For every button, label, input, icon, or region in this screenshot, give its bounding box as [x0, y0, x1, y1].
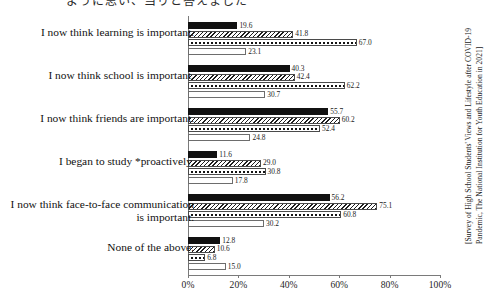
bar-item: 41.8	[188, 31, 308, 38]
bar-value-label: 30.2	[266, 220, 279, 227]
category-label: I now think learning is important.	[9, 26, 194, 39]
clipped-header-label: ように思い、当りと答えました	[66, 0, 491, 7]
category-rows: 19.641.867.023.140.342.462.230.755.760.2…	[188, 16, 440, 274]
bar-diagonal-hatch	[188, 117, 340, 124]
x-axis-line	[188, 275, 441, 276]
bar-item: 40.3	[188, 65, 304, 72]
bar-white-outline	[188, 177, 233, 184]
bar-item: 10.6	[188, 246, 230, 253]
bar-dotted	[188, 211, 341, 218]
x-axis-tickmark	[339, 275, 340, 278]
bar-value-label: 30.8	[268, 168, 281, 175]
bar-value-label: 30.7	[267, 91, 280, 98]
bar-item: 30.7	[188, 91, 280, 98]
x-axis-tick-label: 60%	[330, 279, 348, 291]
x-axis-tick-label: 0%	[182, 279, 195, 291]
bar-diagonal-hatch	[188, 31, 293, 38]
bar-value-label: 40.3	[292, 65, 305, 72]
bar-item: 42.4	[188, 74, 310, 81]
category-row: 12.810.66.815.0	[188, 231, 440, 274]
bar-diagonal-hatch	[188, 203, 377, 210]
bar-item: 75.1	[188, 203, 392, 210]
bar-value-label: 12.8	[222, 237, 235, 244]
x-axis-tickmark	[188, 275, 189, 278]
source-note: [Survey of High School Students' Views a…	[455, 4, 489, 254]
bar-item: 62.2	[188, 82, 360, 89]
bar-value-label: 60.8	[343, 211, 356, 218]
x-axis-tick-label: 100%	[429, 279, 451, 291]
bar-white-outline	[188, 134, 250, 141]
x-axis-tick-labels: 0%20%40%60%80%100%	[188, 279, 441, 295]
bar-dotted	[188, 168, 266, 175]
bar-group: 40.342.462.230.7	[188, 59, 440, 102]
bar-item: 52.4	[188, 125, 335, 132]
bar-item: 29.0	[188, 160, 276, 167]
chart-page: ように思い、当りと答えました 19.641.867.023.140.342.46…	[0, 0, 491, 300]
bar-item: 56.2	[188, 194, 345, 201]
bar-value-label: 29.0	[263, 159, 276, 166]
bar-item: 55.7	[188, 108, 343, 115]
bar-value-label: 62.2	[347, 82, 360, 89]
bar-item: 11.6	[188, 151, 232, 158]
bar-item: 67.0	[188, 39, 372, 46]
bar-item: 30.8	[188, 168, 281, 175]
bar-item: 19.6	[188, 22, 252, 29]
bar-solid-black	[188, 194, 330, 201]
x-axis-tickmark	[440, 275, 441, 278]
category-label: I now think face-to-face communication i…	[9, 198, 194, 224]
clipped-header-text: ように思い、当りと答えました	[0, 0, 491, 11]
category-label: I now think friends are important.	[9, 112, 194, 125]
bar-dotted	[188, 82, 345, 89]
bar-item: 23.1	[188, 48, 261, 55]
bar-item: 17.8	[188, 177, 248, 184]
category-label: I now think school is important.	[9, 69, 194, 82]
bar-group: 19.641.867.023.1	[188, 16, 440, 59]
bar-solid-black	[188, 65, 290, 72]
bar-value-label: 55.7	[330, 108, 343, 115]
category-label: None of the above.	[9, 241, 194, 254]
bar-dotted	[188, 254, 205, 261]
bar-white-outline	[188, 91, 265, 98]
x-axis-tickmark	[238, 275, 239, 278]
bar-diagonal-hatch	[188, 160, 261, 167]
category-row: 56.275.160.830.2	[188, 188, 440, 231]
bar-group: 56.275.160.830.2	[188, 188, 440, 231]
plot-area: 19.641.867.023.140.342.462.230.755.760.2…	[188, 16, 440, 274]
bar-value-label: 75.1	[379, 202, 392, 209]
bar-value-label: 41.8	[295, 30, 308, 37]
x-axis-tick-label: 20%	[230, 279, 248, 291]
bar-white-outline	[188, 220, 264, 227]
bar-value-label: 19.6	[239, 22, 252, 29]
bar-value-label: 17.8	[235, 177, 248, 184]
x-axis-tick-label: 80%	[381, 279, 399, 291]
bar-dotted	[188, 39, 357, 46]
x-axis-tickmark	[390, 275, 391, 278]
category-row: 19.641.867.023.1	[188, 16, 440, 59]
category-label: I began to study *proactively.	[9, 155, 194, 168]
bar-item: 60.2	[188, 117, 355, 124]
bar-dotted	[188, 125, 320, 132]
bar-item: 60.8	[188, 211, 356, 218]
bar-item: 15.0	[188, 263, 241, 270]
bar-value-label: 10.6	[217, 245, 230, 252]
bar-value-label: 11.6	[219, 151, 232, 158]
bar-value-label: 42.4	[297, 73, 310, 80]
bar-item: 6.8	[188, 254, 216, 261]
bar-solid-black	[188, 22, 237, 29]
bar-value-label: 23.1	[248, 48, 261, 55]
bar-item: 24.8	[188, 134, 265, 141]
category-row: 11.629.030.817.8	[188, 145, 440, 188]
category-row: 55.760.252.424.8	[188, 102, 440, 145]
bar-value-label: 24.8	[252, 134, 265, 141]
horizontal-bar-chart: 19.641.867.023.140.342.462.230.755.760.2…	[0, 11, 448, 289]
category-row: 40.342.462.230.7	[188, 59, 440, 102]
bar-diagonal-hatch	[188, 74, 295, 81]
bar-value-label: 15.0	[228, 263, 241, 270]
bar-solid-black	[188, 108, 328, 115]
bar-value-label: 60.2	[342, 116, 355, 123]
bar-group: 55.760.252.424.8	[188, 102, 440, 145]
bar-value-label: 6.8	[207, 254, 216, 261]
bar-group: 11.629.030.817.8	[188, 145, 440, 188]
bar-white-outline	[188, 263, 226, 270]
x-axis-tick-label: 40%	[280, 279, 298, 291]
